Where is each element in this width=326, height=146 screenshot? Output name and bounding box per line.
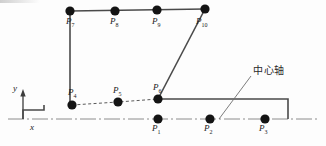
annotation-leader-line	[219, 76, 251, 119]
label-subscript: 2	[210, 129, 213, 135]
engineering-diagram: P1P2P3P4P5P6P7P8P9P10 y x 中心轴	[0, 0, 326, 146]
label-subscript: 8	[116, 22, 119, 28]
control-point-label-p4: P4	[68, 88, 77, 99]
stepped-profile-outline	[23, 105, 44, 119]
lower-shelf-outline	[158, 99, 288, 119]
control-point-label-p5: P5	[113, 86, 122, 97]
x-axis-label: x	[30, 123, 34, 132]
control-point-p10[interactable]	[200, 4, 209, 13]
control-point-p7[interactable]	[65, 6, 74, 15]
label-subscript: 6	[159, 88, 162, 94]
label-subscript: 5	[119, 91, 122, 97]
control-point-p8[interactable]	[110, 6, 119, 15]
label-subscript: 10	[202, 22, 208, 28]
control-point-label-p3: P3	[259, 124, 268, 135]
control-point-p6[interactable]	[153, 94, 162, 103]
label-subscript: 9	[158, 22, 161, 28]
label-subscript: 3	[265, 129, 268, 135]
control-point-label-p8: P8	[110, 17, 119, 28]
control-point-label-p10: P10	[196, 17, 208, 28]
label-subscript: 1	[158, 129, 161, 135]
control-point-label-p2: P2	[204, 124, 213, 135]
control-point-p5[interactable]	[113, 97, 122, 106]
control-point-label-p9: P9	[152, 17, 161, 28]
upper-block-top-edge	[70, 9, 205, 11]
y-axis-arrow-icon	[20, 89, 25, 97]
label-subscript: 4	[74, 93, 77, 99]
center-axis-annotation-label: 中心轴	[253, 66, 285, 76]
control-point-p9[interactable]	[152, 5, 161, 14]
control-point-label-p7: P7	[66, 17, 75, 28]
control-point-label-p1: P1	[152, 124, 161, 135]
control-point-p4[interactable]	[67, 100, 76, 109]
control-point-label-p6: P6	[153, 83, 162, 94]
control-point-group	[65, 4, 269, 123]
y-axis-label: y	[13, 84, 17, 93]
label-subscript: 7	[72, 22, 75, 28]
